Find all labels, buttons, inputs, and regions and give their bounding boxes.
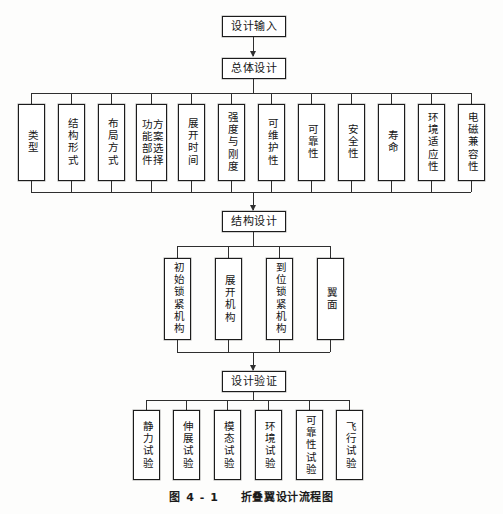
node-verification-item-modal-test[interactable]: 模态试验 bbox=[214, 410, 241, 480]
node-overall-item-lifespan-label: 寿命 bbox=[386, 130, 397, 154]
drop-overall-5 bbox=[191, 93, 192, 104]
node-overall-item-environmental-adaptability-label: 环境适应性 bbox=[426, 112, 437, 173]
figure-caption: 图 4 - 1 折叠翼设计流程图 bbox=[0, 488, 503, 504]
node-overall-item-deploy-time[interactable]: 展开时间 bbox=[178, 104, 205, 181]
riser-overall-11 bbox=[431, 181, 432, 192]
node-overall-item-reliability-label: 可靠性 bbox=[306, 124, 317, 161]
bus-structural-top bbox=[177, 246, 330, 247]
node-verification-item-extension-test-label: 伸展试验 bbox=[181, 421, 192, 470]
node-overall-item-environmental-adaptability[interactable]: 环境适应性 bbox=[418, 104, 445, 181]
drop-overall-10 bbox=[391, 93, 392, 104]
node-structural-item-wing-surface[interactable]: 翼面 bbox=[317, 258, 344, 340]
node-overall-item-safety-label: 安全性 bbox=[346, 124, 357, 161]
node-design-verification-label: 设计验证 bbox=[231, 376, 277, 387]
figure-caption-title: 折叠翼设计流程图 bbox=[241, 491, 334, 504]
riser-overall-7 bbox=[271, 181, 272, 192]
riser-overall-4 bbox=[151, 181, 152, 192]
node-overall-item-strength-stiffness-label: 强度与刚度 bbox=[226, 112, 237, 173]
node-overall-item-safety[interactable]: 安全性 bbox=[338, 104, 365, 181]
drop-overall-8 bbox=[311, 93, 312, 104]
riser-structural-3 bbox=[279, 340, 280, 352]
node-structural-item-inposition-lock-mechanism[interactable]: 到位锁紧机构 bbox=[266, 258, 293, 340]
connector-structural-to-bus bbox=[253, 232, 254, 246]
riser-overall-9 bbox=[351, 181, 352, 192]
node-verification-item-extension-test[interactable]: 伸展试验 bbox=[173, 410, 200, 480]
node-overall-item-functional-component-label: 功能部件 bbox=[140, 119, 151, 167]
node-verification-item-environmental-test[interactable]: 环境试验 bbox=[255, 410, 282, 480]
drop-structural-3 bbox=[279, 246, 280, 258]
node-verification-item-reliability-test-label: 可靠性试验 bbox=[304, 415, 315, 476]
node-structural-item-wing-surface-label: 翼面 bbox=[325, 287, 336, 311]
node-overall-design-label: 总体设计 bbox=[231, 63, 277, 74]
bus-overall-bottom bbox=[31, 192, 471, 193]
node-structural-item-initial-lock-mechanism[interactable]: 初始锁紧机构 bbox=[164, 258, 191, 340]
node-overall-item-layout-mode-label: 布局方式 bbox=[106, 118, 117, 167]
node-verification-item-reliability-test[interactable]: 可靠性试验 bbox=[296, 410, 323, 480]
riser-overall-3 bbox=[111, 181, 112, 192]
riser-overall-6 bbox=[231, 181, 232, 192]
node-overall-item-structure-form-label: 结构形式 bbox=[66, 118, 77, 167]
node-structural-item-initial-lock-mechanism-label: 初始锁紧机构 bbox=[172, 262, 183, 335]
drop-overall-2 bbox=[71, 93, 72, 104]
drop-overall-12 bbox=[471, 93, 472, 104]
node-design-verification[interactable]: 设计验证 bbox=[222, 371, 286, 392]
node-overall-item-structure-form[interactable]: 结构形式 bbox=[58, 104, 85, 181]
drop-verification-5 bbox=[309, 400, 310, 410]
node-verification-item-static-test[interactable]: 静力试验 bbox=[133, 410, 160, 480]
node-overall-item-maintainability[interactable]: 可维护性 bbox=[258, 104, 285, 181]
node-structural-item-deploy-mechanism-label: 展开机构 bbox=[223, 275, 234, 324]
drop-verification-2 bbox=[186, 400, 187, 410]
node-overall-item-type[interactable]: 类型 bbox=[18, 104, 45, 181]
drop-structural-2 bbox=[228, 246, 229, 258]
node-design-input-label: 设计输入 bbox=[231, 21, 277, 32]
drop-structural-1 bbox=[177, 246, 178, 258]
node-overall-item-lifespan[interactable]: 寿命 bbox=[378, 104, 405, 181]
node-overall-item-strength-stiffness[interactable]: 强度与刚度 bbox=[218, 104, 245, 181]
drop-verification-3 bbox=[227, 400, 228, 410]
riser-structural-1 bbox=[177, 340, 178, 352]
bus-verification-top bbox=[146, 400, 349, 401]
node-verification-item-flight-test-label: 飞行试验 bbox=[344, 421, 355, 470]
bus-overall-top bbox=[31, 93, 471, 94]
node-verification-item-flight-test[interactable]: 飞行试验 bbox=[336, 410, 363, 480]
drop-overall-4 bbox=[151, 93, 152, 104]
node-overall-item-type-label: 类型 bbox=[26, 130, 37, 154]
riser-overall-10 bbox=[391, 181, 392, 192]
riser-overall-5 bbox=[191, 181, 192, 192]
drop-overall-3 bbox=[111, 93, 112, 104]
drop-overall-6 bbox=[231, 93, 232, 104]
connector-verification-to-bus bbox=[253, 392, 254, 400]
drop-verification-6 bbox=[349, 400, 350, 410]
node-verification-item-modal-test-label: 模态试验 bbox=[222, 421, 233, 470]
node-design-input[interactable]: 设计输入 bbox=[222, 16, 286, 37]
figure-caption-number: 图 4 - 1 bbox=[169, 491, 218, 504]
node-overall-design[interactable]: 总体设计 bbox=[222, 58, 286, 79]
node-overall-item-emc[interactable]: 电磁兼容性 bbox=[458, 104, 485, 181]
drop-structural-4 bbox=[330, 246, 331, 258]
riser-structural-4 bbox=[330, 340, 331, 352]
drop-verification-4 bbox=[268, 400, 269, 410]
node-overall-item-layout-mode[interactable]: 布局方式 bbox=[98, 104, 125, 181]
node-overall-item-scheme-selection-label: 方案选择 bbox=[152, 119, 163, 167]
node-overall-item-maintainability-label: 可维护性 bbox=[266, 118, 277, 167]
drop-overall-7 bbox=[271, 93, 272, 104]
riser-overall-2 bbox=[71, 181, 72, 192]
node-overall-item-reliability[interactable]: 可靠性 bbox=[298, 104, 325, 181]
flowchart-canvas: 设计输入 总体设计 类型 结构形式 布局方式 方案选择 功能部件 展开时间 强度… bbox=[0, 0, 503, 514]
arrowhead-input-to-overall bbox=[250, 51, 256, 57]
node-structural-item-inposition-lock-mechanism-label: 到位锁紧机构 bbox=[274, 262, 285, 335]
drop-overall-1 bbox=[31, 93, 32, 104]
node-structural-item-deploy-mechanism[interactable]: 展开机构 bbox=[215, 258, 242, 340]
riser-structural-2 bbox=[228, 340, 229, 352]
node-structural-design-label: 结构设计 bbox=[231, 216, 277, 227]
node-verification-item-static-test-label: 静力试验 bbox=[141, 421, 152, 470]
riser-overall-12 bbox=[471, 181, 472, 192]
node-overall-item-deploy-time-label: 展开时间 bbox=[186, 118, 197, 167]
drop-overall-11 bbox=[431, 93, 432, 104]
riser-overall-1 bbox=[31, 181, 32, 192]
node-verification-item-environmental-test-label: 环境试验 bbox=[263, 421, 274, 470]
node-overall-item-emc-label: 电磁兼容性 bbox=[466, 112, 477, 173]
connector-overall-to-bus bbox=[253, 79, 254, 93]
node-overall-item-scheme-selection[interactable]: 方案选择 功能部件 bbox=[136, 104, 167, 181]
node-structural-design[interactable]: 结构设计 bbox=[222, 211, 286, 232]
